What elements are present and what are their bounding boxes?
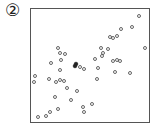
data-point: [79, 66, 82, 69]
data-point: [114, 71, 117, 74]
data-point: [96, 78, 99, 81]
scatter-plot: [0, 0, 156, 125]
data-point: [55, 81, 58, 84]
data-point: [48, 78, 51, 81]
data-point: [120, 28, 123, 31]
data-point: [83, 68, 86, 71]
data-point: [102, 52, 105, 55]
data-point: [66, 87, 69, 90]
data-point: [76, 90, 79, 93]
data-point: [116, 59, 119, 62]
data-point: [131, 26, 134, 29]
data-point: [82, 106, 85, 109]
data-point: [64, 53, 67, 56]
data-point: [49, 111, 52, 114]
data-point: [57, 47, 60, 50]
data-point: [116, 35, 119, 38]
data-point: [112, 37, 115, 40]
data-point: [138, 15, 141, 18]
data-point: [33, 81, 36, 84]
data-point: [144, 47, 147, 50]
data-point: [45, 115, 48, 118]
data-point: [109, 36, 112, 39]
data-point: [129, 72, 132, 75]
data-point: [37, 116, 40, 119]
highlighted-data-point: [73, 64, 77, 68]
data-point: [119, 60, 122, 63]
data-point: [60, 59, 63, 62]
data-point: [100, 47, 103, 50]
data-point: [59, 69, 62, 72]
data-point: [91, 103, 94, 106]
data-point: [97, 67, 100, 70]
data-point: [70, 99, 73, 102]
data-point: [83, 111, 86, 114]
data-point: [57, 108, 60, 111]
data-point: [59, 79, 62, 82]
data-point: [94, 58, 97, 61]
data-point: [59, 52, 62, 55]
data-point: [50, 62, 53, 65]
data-point: [101, 55, 104, 58]
data-point: [112, 60, 115, 63]
data-point: [107, 48, 110, 51]
data-point: [54, 96, 57, 99]
data-point: [63, 80, 66, 83]
data-point: [34, 75, 37, 78]
